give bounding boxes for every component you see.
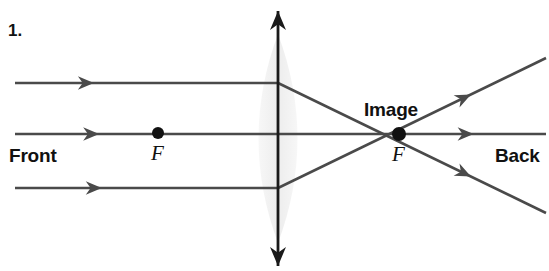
focal-point-back-label: F bbox=[392, 144, 405, 165]
image-point-label: Image bbox=[364, 100, 418, 119]
front-side-label: Front bbox=[9, 146, 57, 165]
ray-diagram-canvas bbox=[0, 0, 549, 271]
figure-number: 1. bbox=[8, 22, 22, 39]
back-side-label: Back bbox=[495, 146, 540, 165]
focal-point-front-label: F bbox=[151, 143, 164, 164]
lower-refracted-ray bbox=[278, 58, 546, 188]
focal-point-front-dot bbox=[152, 127, 164, 139]
lens-ray-diagram: 1. Front Back Image F F bbox=[0, 0, 549, 271]
image-point-dot bbox=[392, 127, 406, 141]
